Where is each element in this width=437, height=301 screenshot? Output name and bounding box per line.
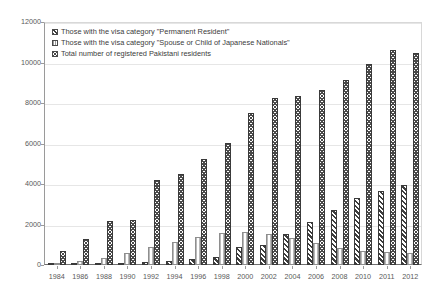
y-tick-label: 0 <box>1 261 41 268</box>
x-tick-mark <box>127 266 128 269</box>
x-tick-mark <box>316 266 317 269</box>
legend-swatch-icon-permanent-resident <box>52 29 58 35</box>
bar <box>248 113 254 265</box>
bar <box>272 98 278 265</box>
x-tick-mark <box>340 266 341 269</box>
bar <box>107 221 113 265</box>
y-tick-label: 6000 <box>1 140 41 147</box>
x-tick-mark <box>292 266 293 269</box>
y-tick-label: 12000 <box>1 18 41 25</box>
bar <box>225 143 231 266</box>
bar <box>60 251 66 265</box>
x-tick-mark <box>57 266 58 269</box>
y-tick-label: 8000 <box>1 99 41 106</box>
x-tick-mark <box>175 266 176 269</box>
bar <box>366 64 372 265</box>
legend-label-spouse-or-child: Those with the visa category "Spouse or … <box>61 39 290 46</box>
x-tick-mark <box>410 266 411 269</box>
bar <box>295 96 301 265</box>
x-tick-mark <box>198 266 199 269</box>
bar-group <box>398 22 422 265</box>
x-tick: 2012 <box>398 266 422 288</box>
y-tick-mark <box>41 265 44 266</box>
legend-item-total-residents: Total number of registered Pakistani res… <box>52 48 290 59</box>
x-tick-label: 2012 <box>392 273 428 280</box>
legend-label-permanent-resident: Those with the visa category "Permanent … <box>61 28 229 35</box>
x-tick-mark <box>245 266 246 269</box>
legend-item-permanent-resident: Those with the visa category "Permanent … <box>52 26 290 37</box>
bar <box>413 53 419 265</box>
bar <box>201 159 207 265</box>
x-tick-mark <box>387 266 388 269</box>
x-tick-mark <box>80 266 81 269</box>
legend-swatch-icon-spouse-or-child <box>52 40 58 46</box>
bar-group <box>351 22 375 265</box>
bar-group <box>375 22 399 265</box>
x-tick-mark <box>104 266 105 269</box>
bar <box>154 180 160 265</box>
chart-legend: Those with the visa category "Permanent … <box>48 24 294 62</box>
x-tick-mark <box>363 266 364 269</box>
bar <box>319 90 325 265</box>
bar <box>130 220 136 265</box>
x-tick-mark <box>222 266 223 269</box>
bar-group <box>304 22 328 265</box>
x-axis: 1984198619881990199219941996199820002002… <box>45 266 422 288</box>
bar <box>83 239 89 265</box>
legend-label-total-residents: Total number of registered Pakistani res… <box>61 50 211 57</box>
y-tick-label: 2000 <box>1 221 41 228</box>
bar-group <box>328 22 352 265</box>
legend-swatch-icon-total-residents <box>52 51 58 57</box>
legend-item-spouse-or-child: Those with the visa category "Spouse or … <box>52 37 290 48</box>
y-tick-label: 10000 <box>1 59 41 66</box>
bar <box>390 50 396 265</box>
bar <box>343 80 349 265</box>
y-tick-label: 4000 <box>1 180 41 187</box>
x-tick-mark <box>269 266 270 269</box>
y-axis: 020004000600080001000012000 <box>0 22 41 265</box>
bar <box>178 174 184 265</box>
x-tick-mark <box>151 266 152 269</box>
bar-chart: 020004000600080001000012000 198419861988… <box>0 0 437 301</box>
